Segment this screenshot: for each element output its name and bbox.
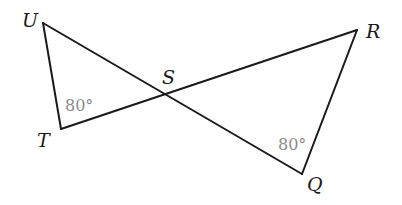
vertex-label-r: R	[365, 20, 380, 42]
angle-label-q: 80°	[278, 135, 306, 154]
vertex-label-t: T	[37, 129, 51, 151]
angle-label-t: 80°	[65, 96, 93, 115]
segment-tr	[61, 30, 357, 129]
vertex-label-s: S	[162, 66, 175, 88]
vertex-label-u: U	[22, 9, 39, 31]
vertex-label-q: Q	[307, 173, 323, 195]
geometry-diagram: U T S R Q 80° 80°	[0, 0, 402, 205]
segment-rq	[302, 30, 357, 174]
segment-ut	[43, 23, 61, 129]
